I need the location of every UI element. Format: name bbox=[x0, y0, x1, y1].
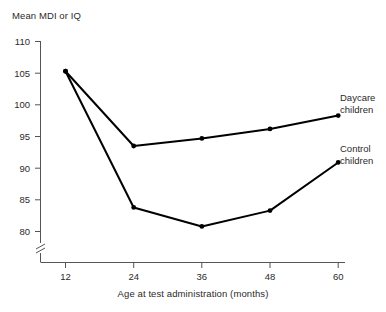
y-tick-label-110: 110 bbox=[4, 36, 30, 47]
y-tick-label-90: 90 bbox=[4, 163, 30, 174]
axis-lines bbox=[35, 41, 345, 268]
x-tick-label-12: 12 bbox=[51, 271, 81, 282]
y-tick-label-80: 80 bbox=[4, 226, 30, 237]
data-point bbox=[199, 136, 204, 141]
series-line-control bbox=[66, 71, 339, 226]
x-axis-ticks bbox=[66, 263, 339, 269]
series-line-daycare bbox=[66, 71, 339, 146]
axis-break-icon bbox=[36, 244, 45, 253]
data-point bbox=[199, 224, 204, 229]
data-point bbox=[268, 126, 273, 131]
series-label-control-line1: Control bbox=[340, 143, 373, 155]
series-label-control: Control children bbox=[340, 143, 373, 166]
y-axis-title: Mean MDI or IQ bbox=[12, 10, 81, 21]
y-tick-label-85: 85 bbox=[4, 194, 30, 205]
data-point bbox=[131, 144, 136, 149]
series-label-daycare-line1: Daycare bbox=[340, 92, 375, 104]
y-tick-label-100: 100 bbox=[4, 99, 30, 110]
series-label-daycare-line2: children bbox=[340, 104, 375, 116]
x-tick-label-48: 48 bbox=[255, 271, 285, 282]
y-tick-label-95: 95 bbox=[4, 131, 30, 142]
y-tick-label-105: 105 bbox=[4, 68, 30, 79]
series-label-control-line2: children bbox=[340, 155, 373, 167]
x-axis-title: Age at test administration (months) bbox=[0, 288, 386, 299]
x-tick-label-60: 60 bbox=[323, 271, 353, 282]
data-point bbox=[131, 205, 136, 210]
chart-plot-area bbox=[0, 0, 386, 312]
y-axis-ticks bbox=[35, 42, 41, 232]
chart-container: Mean MDI or IQ bbox=[0, 0, 386, 312]
data-point bbox=[63, 69, 68, 74]
data-point bbox=[268, 208, 273, 213]
x-tick-label-24: 24 bbox=[119, 271, 149, 282]
series-label-daycare: Daycare children bbox=[340, 92, 375, 115]
data-series-layer bbox=[63, 69, 341, 229]
x-tick-label-36: 36 bbox=[187, 271, 217, 282]
